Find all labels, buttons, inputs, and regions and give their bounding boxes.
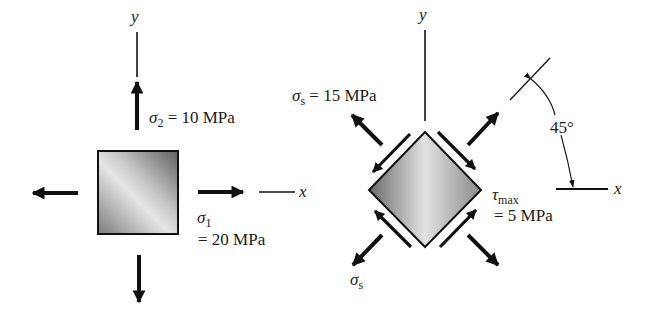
principal-stress-element: y x σ2 = 10 MPa σ1 = 20 MPa — [33, 7, 307, 302]
stress-transformation-diagram: y x σ2 = 10 MPa σ1 = 20 MPa y — [0, 0, 650, 326]
sigma-s-arrow-lower-right — [468, 235, 498, 265]
left-y-axis-label: y — [129, 7, 139, 26]
sigma-s-arrow-lower-left — [353, 235, 382, 265]
sigma-s-arrow-upper-right — [468, 113, 498, 145]
rotated-axis-line — [510, 58, 550, 100]
left-x-axis-label: x — [298, 182, 307, 201]
angle-arc-upper — [531, 79, 555, 115]
sigma-s-top-label: σs = 15 MPa — [292, 86, 377, 108]
right-y-axis-label: y — [417, 5, 427, 24]
principal-element-square — [98, 151, 178, 234]
angle-label: 45° — [550, 118, 574, 137]
max-shear-element: y 45° x σs = 15 MPa σs τmax — [292, 5, 622, 292]
sigma-s-bottom-label: σs — [350, 270, 363, 292]
sigma1-symbol-label: σ1 — [197, 208, 211, 230]
sigma1-value-label: = 20 MPa — [198, 230, 266, 249]
tau-max-value-label: = 5 MPa — [494, 206, 553, 225]
sigma-s-arrow-upper-left — [352, 115, 382, 145]
tau-max-symbol-label: τmax — [492, 185, 519, 207]
rotated-element-diamond — [369, 132, 481, 247]
right-x-axis-label: x — [613, 179, 622, 198]
sigma2-label: σ2 = 10 MPa — [149, 108, 235, 130]
angle-arc-lower — [561, 135, 573, 187]
